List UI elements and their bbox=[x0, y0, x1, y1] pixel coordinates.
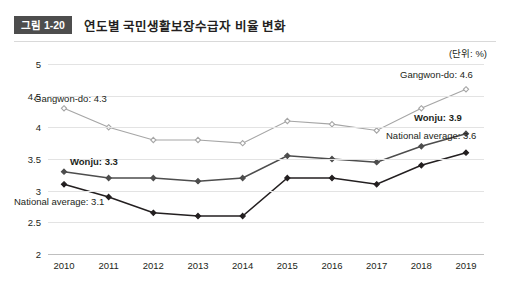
x-axis-tick-label: 2019 bbox=[455, 260, 476, 271]
figure-number-badge: 그림 1-20 bbox=[14, 16, 72, 35]
x-axis-tick-label: 2016 bbox=[321, 260, 342, 271]
chart-header: 그림 1-20 연도별 국민생활보장수급자 비율 변화 bbox=[14, 12, 496, 38]
y-axis-tick-label: 3 bbox=[36, 185, 41, 196]
data-point-marker bbox=[240, 175, 245, 180]
data-point-marker bbox=[195, 179, 200, 184]
x-axis-tick-label: 2012 bbox=[143, 260, 164, 271]
y-axis-tick-label: 2 bbox=[36, 249, 41, 260]
data-point-marker bbox=[374, 182, 379, 187]
x-axis-tick-label: 2017 bbox=[366, 260, 387, 271]
x-axis-tick-label: 2011 bbox=[98, 260, 118, 271]
gridline bbox=[48, 191, 484, 192]
data-point-marker bbox=[61, 106, 66, 111]
gridline bbox=[48, 96, 484, 97]
annotation-gangwon-end: Gangwon-do: 4.6 bbox=[400, 69, 473, 80]
y-axis-tick-label: 4 bbox=[36, 122, 41, 133]
data-point-marker bbox=[329, 175, 334, 180]
data-point-marker bbox=[61, 169, 66, 174]
annotation-national-end: National average: 3.6 bbox=[386, 130, 476, 141]
x-axis-tick-label: 2010 bbox=[53, 260, 74, 271]
x-axis-tick-label: 2018 bbox=[411, 260, 432, 271]
data-point-marker bbox=[463, 150, 468, 155]
data-point-marker bbox=[419, 163, 424, 168]
y-axis-tick-label: 2.5 bbox=[28, 217, 41, 228]
data-point-marker bbox=[151, 175, 156, 180]
page-title: 연도별 국민생활보장수급자 비율 변화 bbox=[84, 16, 286, 35]
data-point-marker bbox=[374, 160, 379, 165]
y-axis-tick-label: 5 bbox=[36, 59, 41, 70]
data-point-marker bbox=[240, 141, 245, 146]
annotation-wonju-start: Wonju: 3.3 bbox=[70, 156, 118, 167]
x-axis-tick-label: 2014 bbox=[232, 260, 253, 271]
unit-note: (단위: %) bbox=[449, 46, 487, 60]
annotation-wonju-end: Wonju: 3.9 bbox=[414, 112, 462, 123]
data-point-marker bbox=[374, 128, 379, 133]
x-axis-tick-label: 2013 bbox=[187, 260, 208, 271]
gridline bbox=[48, 222, 484, 223]
data-point-marker bbox=[61, 182, 66, 187]
header-divider bbox=[14, 41, 496, 42]
data-point-marker bbox=[195, 213, 200, 218]
data-point-marker bbox=[329, 122, 334, 127]
gridline bbox=[48, 64, 484, 65]
chart-page: 그림 1-20 연도별 국민생활보장수급자 비율 변화 (단위: %) 22.5… bbox=[0, 0, 509, 289]
data-point-marker bbox=[285, 118, 290, 123]
x-axis-line bbox=[48, 254, 484, 255]
x-axis-tick-label: 2015 bbox=[277, 260, 298, 271]
data-point-marker bbox=[285, 153, 290, 158]
data-point-marker bbox=[106, 194, 111, 199]
annotation-national-start: National average: 3.1 bbox=[14, 196, 104, 207]
data-point-marker bbox=[195, 137, 200, 142]
annotation-gangwon-start: Gangwon-do: 4.3 bbox=[34, 93, 107, 104]
data-point-marker bbox=[151, 137, 156, 142]
data-point-marker bbox=[419, 144, 424, 149]
y-axis-tick-label: 3.5 bbox=[28, 154, 41, 165]
data-point-marker bbox=[463, 87, 468, 92]
gridline bbox=[48, 127, 484, 128]
data-point-marker bbox=[106, 175, 111, 180]
data-point-marker bbox=[419, 106, 424, 111]
data-point-marker bbox=[151, 210, 156, 215]
series-line-national-average bbox=[64, 153, 466, 216]
